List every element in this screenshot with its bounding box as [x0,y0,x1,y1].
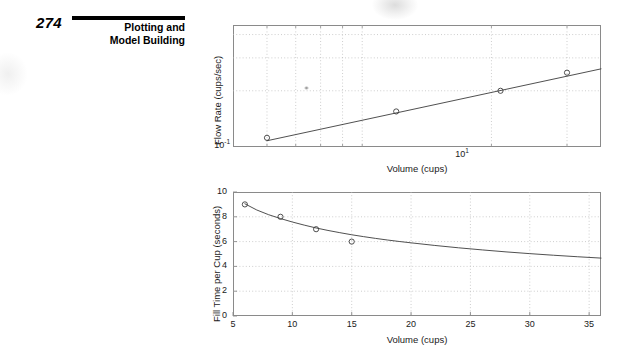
plot-canvas-flow-rate [0,0,630,182]
x-axis-label-flow-rate: Volume (cups) [337,163,497,174]
flow-rate-data-point [564,70,569,75]
x-tick-label-fill-time: 10 [272,319,312,329]
x-axis-label-fill-time: Volume (cups) [337,334,497,345]
fill-time-gridlines [233,192,601,316]
y-tick-label-fill-time: 2 [191,285,227,295]
y-tick-label-flow-rate: 10-1 [196,140,230,150]
flow-rate-gridlines [233,25,601,147]
x-tick-label-flow-rate: 101 [444,149,480,159]
flow-rate-data-layer [264,69,601,141]
x-tick-label-fill-time: 15 [332,319,372,329]
x-tick-label-fill-time: 30 [510,319,550,329]
x-tick-label-fill-time: 20 [391,319,431,329]
y-tick-label-fill-time: 8 [191,211,227,221]
y-tick-label-fill-time: 10 [191,186,227,196]
x-tick-label-fill-time: 35 [569,319,609,329]
fill-time-data-layer [242,202,601,258]
fill-time-data-point [314,227,319,232]
flow-rate-fit-curve [267,69,601,141]
fill-time-fit-curve [245,204,601,258]
y-axis-label-flow-rate: Flow Rate (cups/sec) [212,56,223,145]
plot-canvas-fill-time [0,182,630,362]
y-tick-label-fill-time: 4 [191,260,227,270]
chart-flow-rate: Flow Rate (cups/sec) Volume (cups) 10-1 … [0,0,630,182]
x-tick-label-fill-time: 5 [213,319,253,329]
y-tick-label-fill-time: 0 [191,310,227,320]
y-tick-label-fill-time: 6 [191,236,227,246]
x-tick-label-fill-time: 25 [450,319,490,329]
chart-fill-time: Fill Time per Cup (seconds) Volume (cups… [0,182,630,362]
